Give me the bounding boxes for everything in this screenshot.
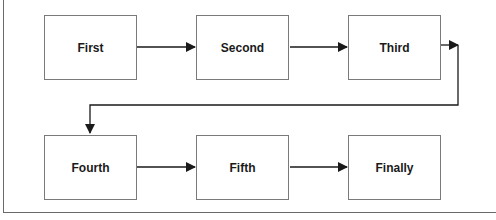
node-label: Third: [380, 41, 410, 55]
node-first: First: [44, 15, 137, 80]
node-third: Third: [348, 15, 441, 80]
node-fifth: Fifth: [196, 135, 289, 200]
node-label: Fifth: [230, 161, 256, 175]
node-fourth: Fourth: [44, 135, 137, 200]
node-label: Second: [221, 41, 264, 55]
node-finally: Finally: [348, 135, 441, 200]
node-label: Finally: [375, 161, 413, 175]
node-label: First: [77, 41, 103, 55]
node-label: Fourth: [72, 161, 110, 175]
node-second: Second: [196, 15, 289, 80]
